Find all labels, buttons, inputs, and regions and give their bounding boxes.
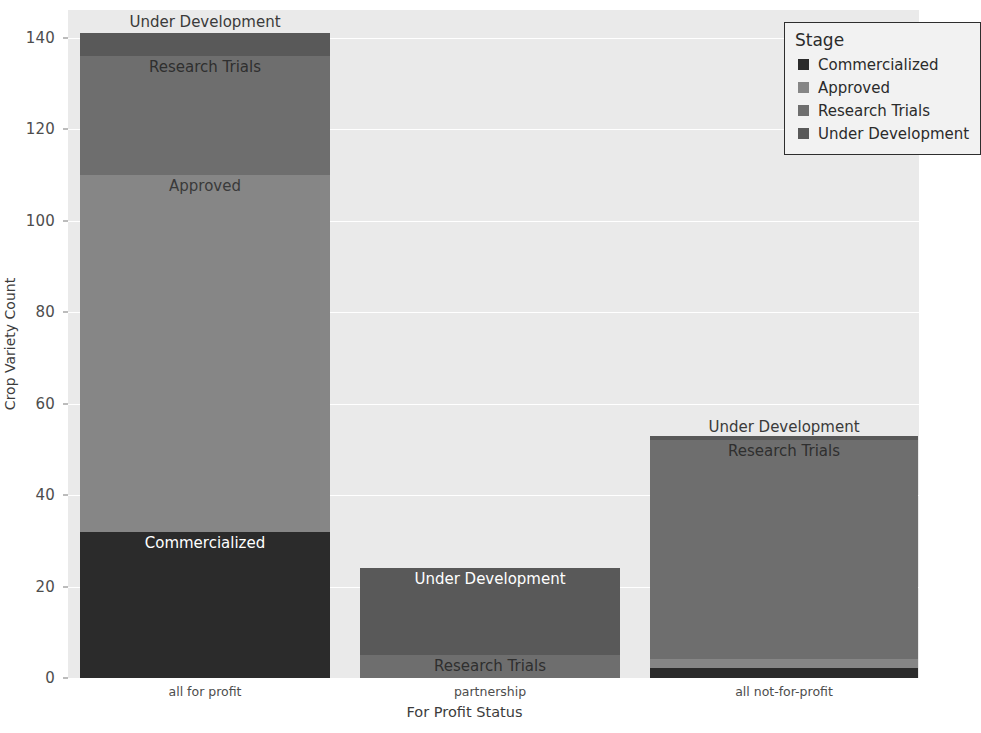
bar-group-all-not-for-profit[interactable]: Research Trials bbox=[650, 436, 918, 678]
bar-segment-approved[interactable]: Approved bbox=[80, 175, 330, 532]
legend-title: Stage bbox=[795, 30, 970, 50]
legend-swatch-under-development bbox=[798, 128, 809, 139]
bar1-outside-label-under-development: Under Development bbox=[129, 13, 280, 31]
legend-item-commercialized[interactable]: Commercialized bbox=[795, 53, 970, 76]
bar-segment-label-approved: Approved bbox=[169, 175, 241, 195]
bar-segment-label-research-trials: Research Trials bbox=[149, 56, 261, 76]
bar-segment-research-trials[interactable]: Research Trials bbox=[80, 56, 330, 175]
legend-item-research-trials[interactable]: Research Trials bbox=[795, 99, 970, 122]
legend-swatch-commercialized bbox=[798, 59, 809, 70]
gridline-0 bbox=[68, 678, 919, 679]
x-tick-label-all-for-profit: all for profit bbox=[169, 684, 242, 699]
legend-swatch-approved bbox=[798, 82, 809, 93]
bar-group-all-for-profit[interactable]: Commercialized Approved Research Trials bbox=[80, 33, 330, 678]
bar3-outside-label-under-development: Under Development bbox=[708, 418, 859, 436]
bar-segment-under-development[interactable] bbox=[80, 33, 330, 56]
x-tick-label-partnership: partnership bbox=[454, 684, 526, 699]
legend[interactable]: Stage Commercialized Approved Research T… bbox=[784, 22, 981, 155]
legend-label-under-development: Under Development bbox=[818, 125, 969, 143]
legend-label-approved: Approved bbox=[818, 79, 890, 97]
y-axis-title-wrap: Crop Variety Count bbox=[0, 10, 82, 678]
bar-segment-commercialized[interactable]: Commercialized bbox=[80, 532, 330, 678]
legend-item-approved[interactable]: Approved bbox=[795, 76, 970, 99]
y-axis-title: Crop Variety Count bbox=[2, 278, 18, 410]
bar-segment-under-development[interactable] bbox=[650, 436, 918, 441]
bar-segment-label-commercialized: Commercialized bbox=[145, 532, 266, 552]
bar-segment-commercialized[interactable] bbox=[650, 668, 918, 678]
bar-segment-research-trials[interactable]: Research Trials bbox=[650, 440, 918, 659]
legend-label-commercialized: Commercialized bbox=[818, 56, 939, 74]
bar-segment-under-development[interactable]: Under Development bbox=[360, 568, 620, 655]
bar-segment-approved[interactable] bbox=[650, 659, 918, 668]
bar-segment-label-research-trials: Research Trials bbox=[434, 655, 546, 675]
bar-group-partnership[interactable]: Research Trials Under Development bbox=[360, 568, 620, 678]
plot-area: Commercialized Approved Research Trials … bbox=[68, 10, 919, 678]
legend-label-research-trials: Research Trials bbox=[818, 102, 930, 120]
x-tick-label-all-not-for-profit: all not-for-profit bbox=[735, 684, 833, 699]
bar-segment-label-research-trials: Research Trials bbox=[728, 440, 840, 460]
legend-item-under-development[interactable]: Under Development bbox=[795, 122, 970, 145]
bar-segment-research-trials[interactable]: Research Trials bbox=[360, 655, 620, 678]
x-axis-title: For Profit Status bbox=[0, 704, 929, 720]
bar-segment-label-under-development: Under Development bbox=[414, 568, 565, 588]
legend-swatch-research-trials bbox=[798, 105, 809, 116]
